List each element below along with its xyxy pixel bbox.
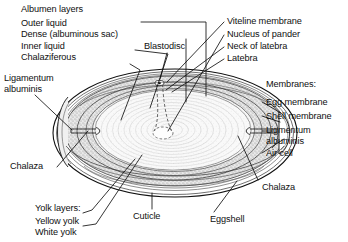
label-eggshell: Eggshell	[210, 214, 244, 225]
label-cuticle: Cuticle	[133, 211, 160, 222]
egg-body	[53, 69, 297, 197]
label-chalaza-right: Chalaza	[262, 182, 295, 193]
label-egg-membrane: Egg membrane	[266, 97, 328, 108]
label-yolk-layers-heading: Yolk layers:	[35, 203, 80, 214]
label-shell-membrane: Shell membrane	[266, 111, 332, 122]
label-dense-albuminous-sac: Dense (albuminous sac)	[21, 29, 118, 40]
label-yellow-yolk: Yellow yolk	[35, 216, 79, 227]
label-chalaziferous: Chalaziferous	[21, 52, 76, 63]
label-blastodisc: Blastodisc	[144, 41, 185, 52]
latebra-nucleus	[153, 127, 173, 139]
label-inner-liquid: Inner liquid	[21, 41, 65, 52]
egg-anatomy-figure: Albumen layers Outer liquid Dense (album…	[0, 0, 348, 242]
label-neck-of-latebra: Neck of latebra	[227, 41, 287, 52]
albumen-layers-heading: Albumen layers	[21, 4, 83, 15]
label-viteline-membrane: Viteline membrane	[227, 16, 302, 27]
label-outer-liquid: Outer liquid	[21, 18, 67, 29]
label-ligamentum-albuminis-left: Ligamentum albuminis	[4, 73, 54, 94]
label-membranes-heading: Membranes:	[266, 79, 316, 90]
label-white-yolk: White yolk	[35, 227, 76, 238]
label-ligamentum-albuminis-right: Ligmentum albuminis	[266, 125, 311, 146]
label-latebra: Latebra	[227, 53, 257, 64]
label-air-cell: Air cell	[266, 148, 293, 159]
yolk-halftone	[95, 90, 251, 170]
label-nucleus-of-pander: Nucleus of pander	[227, 29, 300, 40]
label-chalaza-left: Chalaza	[10, 161, 43, 172]
